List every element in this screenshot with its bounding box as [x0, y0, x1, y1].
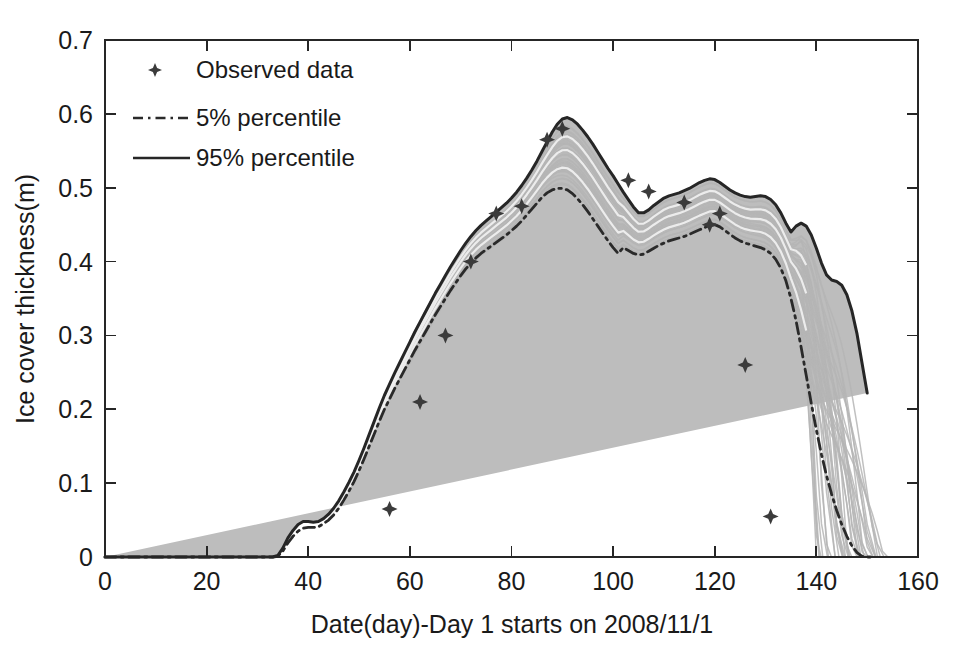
- x-tick-label: 40: [294, 567, 322, 595]
- legend-label-observed: Observed data: [196, 56, 354, 83]
- x-tick-label: 120: [694, 567, 736, 595]
- legend-label-p5: 5% percentile: [196, 104, 341, 131]
- y-tick-label: 0.3: [58, 321, 93, 349]
- y-tick-label: 0.4: [58, 248, 93, 276]
- x-tick-label: 140: [796, 567, 838, 595]
- y-tick-label: 0.6: [58, 100, 93, 128]
- y-tick-label: 0.1: [58, 469, 93, 497]
- x-tick-label: 20: [193, 567, 221, 595]
- y-tick-label: 0.5: [58, 174, 93, 202]
- y-tick-label: 0: [79, 543, 93, 571]
- x-tick-label: 0: [98, 567, 112, 595]
- chart-figure: 020406080100120140160 00.10.20.30.40.50.…: [0, 0, 974, 651]
- y-tick-label: 0.7: [58, 26, 93, 54]
- y-tick-label: 0.2: [58, 395, 93, 423]
- x-tick-label: 100: [592, 567, 634, 595]
- x-axis-title: Date(day)-Day 1 starts on 2008/11/1: [311, 610, 714, 638]
- x-tick-label: 60: [396, 567, 424, 595]
- x-tick-label: 160: [897, 567, 939, 595]
- x-tick-label: 80: [498, 567, 526, 595]
- y-axis-title: Ice cover thickness(m): [11, 174, 39, 424]
- legend-label-p95: 95% percentile: [196, 144, 355, 171]
- ice-cover-thickness-chart: 020406080100120140160 00.10.20.30.40.50.…: [0, 0, 974, 651]
